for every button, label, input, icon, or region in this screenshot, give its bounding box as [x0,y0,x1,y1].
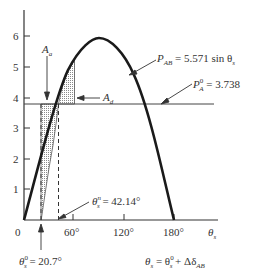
theta-0-label: θ0s = 20.7° [19,255,62,267]
accelerating-area-label: Aa [42,43,52,55]
x-ticks [73,214,174,220]
power-angle-chart [0,0,258,280]
x-axis-title: θs [208,226,216,238]
x-tick-label-0: 0 [15,226,21,238]
area-decelerating [59,60,75,104]
y-tick-label-4: 4 [13,92,19,104]
theta-n-label: θns = 42.14° [92,195,141,207]
x-tick-label-60: 60° [64,226,79,238]
y-ticks [24,36,30,189]
mechanical-power-label: P0A = 3.738 [193,78,240,90]
x-tick-label-120: 120° [113,226,134,238]
angle-equation-label: θs = θ0s + ΔδAB [145,255,205,267]
y-tick-label-3: 3 [13,122,19,134]
curve-equation-label: PAB = 5.571 sin θs [157,52,235,64]
decelerating-area-label: Ad [103,91,113,103]
y-tick-label-1: 1 [13,183,19,195]
y-tick-label-2: 2 [13,153,19,165]
x-tick-label-180: 180° [163,226,184,238]
y-tick-label-5: 5 [13,61,19,73]
y-tick-label-6: 6 [13,30,19,42]
